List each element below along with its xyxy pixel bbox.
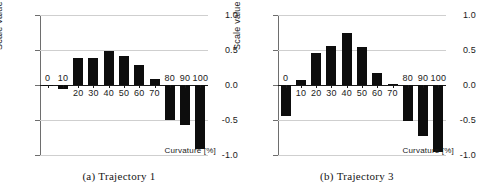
y-tick-label: -1.0: [206, 150, 238, 160]
x-tick-label: 100: [187, 73, 213, 83]
chart-panel-b: Scale value Curvature [%] (b) Trajectory…: [238, 0, 476, 196]
chart-panel-a: Scale value Curvature [%] (a) Trajectory…: [0, 0, 238, 196]
y-tick-mark: [273, 155, 278, 156]
y-tick-mark: [273, 15, 278, 16]
x-tick-mark: [200, 85, 201, 88]
x-tick-mark: [438, 85, 439, 88]
y-tick-mark: [35, 15, 40, 16]
x-tick-label: 70: [380, 88, 406, 98]
x-tick-mark: [63, 85, 64, 88]
y-tick-label: -0.5: [206, 115, 238, 125]
y-tick-mark: [273, 85, 278, 86]
bar: [119, 56, 129, 85]
bar: [311, 53, 321, 85]
x-tick-label: 70: [142, 88, 168, 98]
y-axis-title-b: Scale value: [232, 1, 242, 50]
y-tick-label: -0.5: [444, 115, 476, 125]
bar: [372, 73, 382, 85]
gridline--1: [278, 155, 446, 156]
bar: [195, 85, 205, 149]
panel-caption-b: (b) Trajectory 3: [238, 170, 476, 182]
bar: [104, 51, 114, 85]
y-tick-mark: [35, 50, 40, 51]
y-axis-title-a: Scale value: [0, 1, 4, 50]
x-tick-mark: [185, 85, 186, 88]
bar: [326, 46, 336, 85]
bar: [357, 47, 367, 85]
y-tick-mark: [35, 85, 40, 86]
bar: [433, 85, 443, 152]
y-tick-label: -1.0: [444, 150, 476, 160]
bar: [134, 65, 144, 85]
y-tick-label: 0.5: [444, 45, 476, 55]
y-tick-mark: [35, 120, 40, 121]
bar: [180, 85, 190, 125]
x-tick-label: 100: [425, 73, 451, 83]
bar: [88, 58, 98, 85]
x-tick-mark: [408, 85, 409, 88]
bar: [418, 85, 428, 136]
bars-container-a: [40, 15, 208, 155]
y-tick-label: 1.0: [444, 10, 476, 20]
y-tick-mark: [273, 120, 278, 121]
y-tick-mark: [35, 155, 40, 156]
x-tick-mark: [423, 85, 424, 88]
x-tick-label: 0: [273, 73, 299, 83]
figure-container: Scale value Curvature [%] (a) Trajectory…: [0, 0, 477, 196]
gridline--1: [40, 155, 208, 156]
x-tick-label: 10: [50, 73, 76, 83]
x-tick-mark: [170, 85, 171, 88]
panel-caption-a: (a) Trajectory 1: [0, 170, 238, 182]
y-tick-mark: [273, 50, 278, 51]
bars-container-b: [278, 15, 446, 155]
x-tick-mark: [48, 85, 49, 88]
x-tick-mark: [286, 85, 287, 88]
bar: [342, 33, 352, 86]
